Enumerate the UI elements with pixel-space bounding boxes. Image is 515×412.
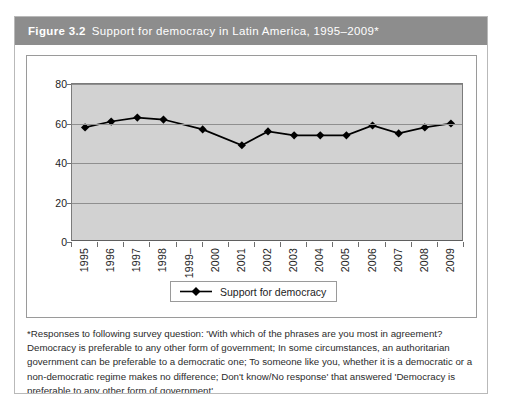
data-point-marker (342, 131, 350, 139)
x-axis-tick-mark (437, 242, 438, 247)
x-axis-tick-mark (280, 242, 281, 247)
x-axis-tick-mark (71, 242, 72, 247)
x-axis-tick-label: 2004 (313, 248, 325, 272)
x-axis-tick-label: 2006 (366, 248, 378, 272)
x-axis-tick-label: 2002 (261, 248, 273, 272)
x-axis-tick-mark (463, 242, 464, 247)
data-point-marker (395, 129, 403, 137)
x-axis-tick-label: 1997 (130, 248, 142, 272)
x-axis-tick-mark (385, 242, 386, 247)
x-axis-tick-label: 1996 (104, 248, 116, 272)
x-axis-tick-label: 2007 (392, 248, 404, 272)
data-point-marker (199, 125, 207, 133)
x-axis-tick-label: 1998 (156, 248, 168, 272)
data-point-marker (264, 127, 272, 135)
x-axis-tick-mark (176, 242, 177, 247)
plot-area (71, 83, 463, 241)
figure-card: Figure 3.2 Support for democracy in Lati… (14, 16, 488, 394)
x-axis-tick-label: 2001 (235, 248, 247, 272)
x-axis-tick-mark (358, 242, 359, 247)
figure-title: Support for democracy in Latin America, … (92, 25, 379, 37)
x-axis-tick-mark (306, 242, 307, 247)
x-axis-tick-mark (149, 242, 150, 247)
data-point-marker (238, 141, 246, 149)
diamond-marker-icon (179, 286, 213, 297)
x-axis-tick-mark (97, 242, 98, 247)
x-axis-tick-label: 2005 (339, 248, 351, 272)
data-point-marker (421, 123, 429, 131)
x-axis-tick-mark (202, 242, 203, 247)
legend-label: Support for democracy (220, 286, 326, 298)
y-axis-ticks (27, 83, 73, 242)
gridline (72, 163, 462, 164)
footnote-text: *Responses to following survey question:… (27, 327, 477, 394)
x-axis-tick-mark (332, 242, 333, 247)
gridline (72, 124, 462, 125)
x-axis-tick-mark (228, 242, 229, 247)
data-point-marker (133, 113, 141, 121)
x-axis-tick-label: 2008 (418, 248, 430, 272)
chart-frame: 020406080 19951996199719981999–200020012… (26, 55, 477, 318)
figure-number: Figure 3.2 (28, 25, 86, 37)
x-axis-tick-mark (254, 242, 255, 247)
x-axis-tick-label: 1999– (183, 248, 195, 278)
data-point-marker (81, 123, 89, 131)
gridline (72, 203, 462, 204)
data-point-marker (290, 131, 298, 139)
x-axis-tick-label: 2009 (444, 248, 456, 272)
x-axis-tick-label: 2000 (209, 248, 221, 272)
data-point-marker (316, 131, 324, 139)
x-axis-tick-mark (411, 242, 412, 247)
x-axis-tick-label: 2003 (287, 248, 299, 272)
figure-notes: *Responses to following survey question:… (27, 327, 477, 394)
data-point-marker (159, 115, 167, 123)
figure-header: Figure 3.2 Support for democracy in Lati… (15, 17, 487, 45)
chart-plot-wrapper: 020406080 19951996199719981999–200020012… (27, 56, 476, 317)
x-axis-tick-label: 1995 (78, 248, 90, 272)
chart-legend: Support for democracy (170, 281, 337, 302)
x-axis-tick-mark (123, 242, 124, 247)
gridline (72, 84, 462, 85)
